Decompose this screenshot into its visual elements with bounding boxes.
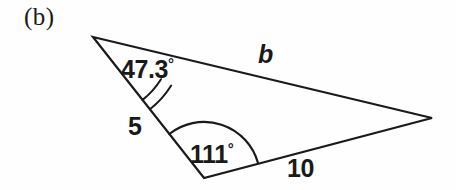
degree-symbol-icon-c: ° [228, 140, 234, 157]
side-label-10: 10 [287, 156, 314, 181]
figure-container: (b) 47.3° 111° b 5 10 [0, 0, 456, 190]
degree-symbol-icon-a: ° [168, 55, 174, 72]
angle-label-47-3: 47.3° [121, 56, 174, 82]
angle-label-111: 111° [190, 141, 234, 167]
side-label-b: b [258, 42, 273, 67]
angle-label-111-value: 111 [190, 140, 228, 168]
angle-label-47-3-value: 47.3 [121, 55, 168, 83]
part-label: (b) [24, 4, 55, 29]
side-label-5: 5 [128, 114, 142, 139]
